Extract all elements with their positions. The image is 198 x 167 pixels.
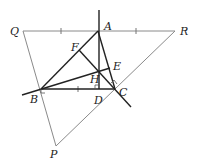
label-q: Q (10, 25, 19, 38)
label-b: B (29, 93, 38, 106)
geometry-diagram: A B C D E F H P Q R (0, 0, 198, 167)
label-a: A (103, 20, 112, 33)
label-c: C (119, 86, 128, 99)
label-p: P (49, 148, 58, 161)
label-e: E (112, 60, 121, 73)
right-angle-markers (41, 80, 117, 93)
triangle-abc (22, 10, 131, 107)
label-d: D (93, 94, 103, 107)
label-r: R (179, 25, 188, 38)
label-h: H (89, 73, 100, 86)
label-f: F (70, 41, 79, 54)
